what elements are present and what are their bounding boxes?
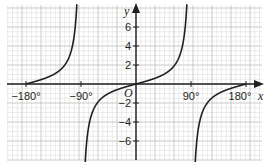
y-tick-label: 6 bbox=[125, 21, 131, 33]
tan-graph: −180°−90°90°180°642−2−4−6 x y O bbox=[0, 0, 269, 163]
y-axis-label: y bbox=[123, 4, 130, 18]
x-axis-label: x bbox=[257, 89, 264, 103]
x-tick-label: −90° bbox=[69, 90, 92, 102]
x-tick-label: 90° bbox=[183, 90, 200, 102]
y-tick-label: 4 bbox=[125, 40, 131, 52]
y-tick-label: 2 bbox=[125, 59, 131, 71]
grid bbox=[7, 5, 262, 160]
y-tick-label: −4 bbox=[118, 116, 131, 128]
origin-label: O bbox=[124, 86, 133, 100]
y-tick-label: −6 bbox=[118, 135, 131, 147]
x-axis-arrow-icon bbox=[254, 80, 264, 88]
x-tick-label: −180° bbox=[11, 90, 40, 102]
x-tick-label: 180° bbox=[229, 90, 252, 102]
